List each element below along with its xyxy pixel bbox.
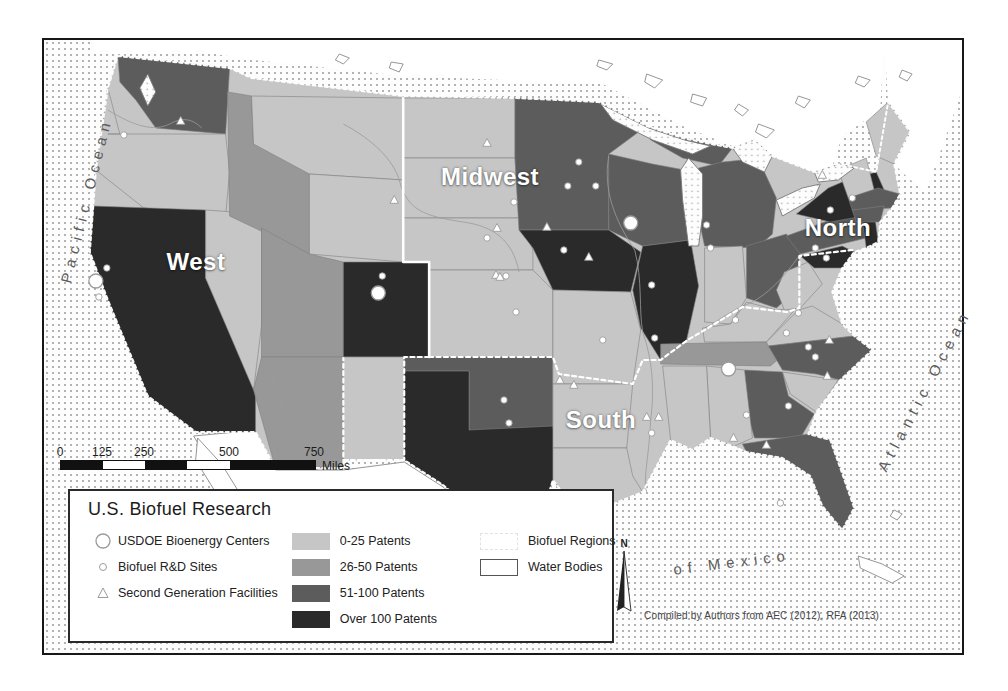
legend-title: U.S. Biofuel Research: [88, 499, 600, 520]
rd-site-symbol: [513, 309, 519, 315]
attribution-text: Compiled by Authors from AEC (2012), RFA…: [644, 610, 924, 621]
rd-site-symbol: [812, 245, 818, 251]
scale-bar: 0125250500750 Miles: [60, 445, 360, 481]
rd-site-symbol: [777, 500, 783, 506]
choropleth-swatch: [292, 611, 330, 628]
rd-site-symbol: [648, 282, 654, 288]
rd-site-symbol: [651, 335, 657, 341]
rd-site-symbol: [565, 183, 571, 189]
rd-site-symbol: [812, 354, 818, 360]
regions-swatch: [480, 533, 518, 550]
usdoe-center-symbol: [89, 274, 103, 288]
north-arrow-label: N: [614, 538, 634, 549]
legend-point-item: Second Generation Facilities: [88, 580, 292, 606]
scale-segment: [103, 461, 145, 469]
legend-choropleth-item: 26-50 Patents: [292, 554, 480, 580]
scale-bar-segments: [60, 460, 316, 470]
choropleth-label: 0-25 Patents: [340, 534, 411, 548]
scale-segment: [145, 461, 187, 469]
choropleth-swatch: [292, 533, 330, 550]
choropleth-swatch: [292, 559, 330, 576]
bahamas-island: [890, 510, 902, 520]
legend-point-label: USDOE Bioenergy Centers: [118, 534, 269, 548]
legend-area-item-water: Water Bodies: [480, 554, 600, 580]
rd-site-symbol: [823, 255, 829, 261]
rd-site-icon: [88, 558, 118, 576]
scale-tick: 0: [57, 445, 64, 459]
rd-site-symbol: [506, 420, 512, 426]
rd-site-symbol: [805, 344, 811, 350]
rd-site-symbol: [600, 337, 606, 343]
scale-segment: [61, 461, 103, 469]
usdoe-center-symbol: [371, 286, 385, 300]
north-arrow-icon: [614, 549, 634, 615]
cuba-island: [858, 556, 904, 583]
rd-site-symbol: [827, 207, 833, 213]
legend-choropleth-item: 51-100 Patents: [292, 580, 480, 606]
legend-area-label: Water Bodies: [528, 560, 603, 574]
choropleth-swatch: [292, 585, 330, 602]
choropleth-label: 26-50 Patents: [340, 560, 418, 574]
usdoe-center-symbol: [722, 362, 736, 376]
choropleth-label: Over 100 Patents: [340, 612, 437, 626]
scale-segment: [187, 461, 230, 469]
rd-site-symbol: [783, 330, 789, 336]
rd-site-symbol: [785, 403, 791, 409]
rd-site-symbol: [703, 222, 709, 228]
scale-tick: 750: [304, 445, 324, 459]
legend-choropleth-item: Over 100 Patents: [292, 606, 480, 632]
scale-tick: 500: [219, 445, 239, 459]
rd-site-symbol: [576, 159, 582, 165]
legend-choropleth-item: 0-25 Patents: [292, 528, 480, 554]
legend-point-item: USDOE Bioenergy Centers: [88, 528, 292, 554]
rd-site-symbol: [707, 245, 713, 251]
usdoe-center-symbol: [624, 216, 638, 230]
rd-site-symbol: [121, 132, 127, 138]
rd-site-symbol: [732, 317, 738, 323]
rd-site-symbol: [593, 183, 599, 189]
scale-bar-ticks: 0125250500750: [60, 445, 360, 459]
legend-panel: U.S. Biofuel Research USDOE Bioenergy Ce…: [68, 489, 614, 643]
scale-tick: 125: [92, 445, 112, 459]
legend-area-label: Biofuel Regions: [528, 534, 616, 548]
second-gen-icon: [88, 584, 118, 602]
rd-site-symbol: [503, 273, 509, 279]
map-frame: WestMidwestNorthSouthPacific OceanAtlant…: [42, 38, 964, 655]
legend-point-item: Biofuel R&D Sites: [88, 554, 292, 580]
legend-area-items: Biofuel RegionsWater Bodies: [480, 528, 600, 580]
rd-site-symbol: [104, 265, 110, 271]
legend-choropleth-items: 0-25 Patents26-50 Patents51-100 PatentsO…: [292, 528, 480, 632]
scale-tick: 250: [134, 445, 154, 459]
legend-area-item-regions: Biofuel Regions: [480, 528, 600, 554]
legend-point-label: Second Generation Facilities: [118, 586, 278, 600]
rd-site-symbol: [849, 195, 855, 201]
legend-point-items: USDOE Bioenergy CentersBiofuel R&D Sites…: [88, 528, 292, 606]
rd-site-symbol: [511, 199, 517, 205]
choropleth-label: 51-100 Patents: [340, 586, 425, 600]
scale-segment: [230, 461, 315, 469]
rd-site-symbol: [501, 397, 507, 403]
rd-site-symbol: [484, 235, 490, 241]
rd-site-symbol: [648, 430, 654, 436]
usdoe-center-icon: [88, 532, 118, 550]
rd-site-symbol: [561, 247, 567, 253]
rd-site-symbol: [795, 310, 801, 316]
north-arrow: N: [614, 538, 634, 618]
rd-site-symbol: [96, 294, 102, 300]
rd-site-symbol: [743, 412, 749, 418]
water-swatch: [480, 559, 518, 576]
legend-point-label: Biofuel R&D Sites: [118, 560, 217, 574]
rd-site-symbol: [379, 273, 385, 279]
scale-bar-unit: Miles: [322, 459, 350, 473]
map-figure: WestMidwestNorthSouthPacific OceanAtlant…: [0, 0, 1008, 691]
